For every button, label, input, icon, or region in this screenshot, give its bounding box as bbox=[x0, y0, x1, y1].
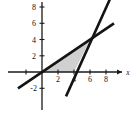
y-tick-label-2: 2 bbox=[32, 52, 36, 61]
y-tick-label-6: 6 bbox=[32, 19, 36, 28]
y-tick-label-neg2: -2 bbox=[30, 84, 37, 93]
x-axis-label: x bbox=[125, 68, 130, 77]
y-tick-label-4: 4 bbox=[32, 36, 36, 45]
chart-figure: 8 6 4 2 -2 2 4 6 8 x bbox=[0, 0, 135, 113]
y-tick-label-8: 8 bbox=[32, 3, 36, 12]
x-tick-label-6: 6 bbox=[88, 75, 92, 84]
x-axis-arrow-icon bbox=[117, 70, 122, 75]
x-tick-label-4: 4 bbox=[72, 75, 76, 84]
x-tick-label-8: 8 bbox=[104, 75, 108, 84]
x-tick-label-2: 2 bbox=[56, 75, 60, 84]
coordinate-plot: 8 6 4 2 -2 2 4 6 8 x bbox=[0, 0, 135, 113]
